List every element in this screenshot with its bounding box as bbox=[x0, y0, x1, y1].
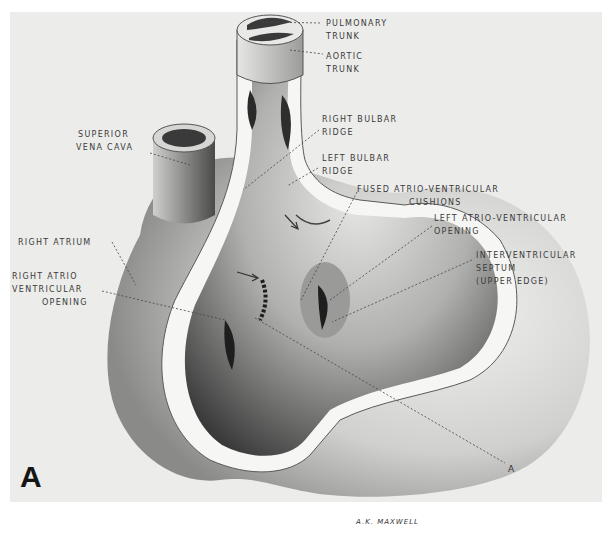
label-right-av-opening: RIGHT ATRIO VENTRICULAR OPENING bbox=[12, 270, 88, 309]
label-left-av-opening: LEFT ATRIO-VENTRICULAR OPENING bbox=[434, 212, 567, 238]
section-marker-a: A bbox=[508, 464, 514, 474]
label-aortic-trunk: AORTIC TRUNK bbox=[326, 50, 363, 76]
label-pulmonary-trunk: PULMONARY TRUNK bbox=[326, 17, 387, 43]
label-interventricular-septum: INTERVENTRICULAR SEPTUM (UPPER EDGE) bbox=[476, 249, 577, 288]
panel-letter: A bbox=[20, 460, 42, 494]
label-fused-av-cushions: FUSED ATRIO-VENTRICULAR CUSHIONS bbox=[357, 183, 499, 209]
superior-vena-cava-vessel bbox=[153, 124, 215, 224]
left-av-opening-shape bbox=[300, 262, 350, 338]
label-right-atrium: RIGHT ATRIUM bbox=[18, 236, 92, 249]
heart-embryology-figure: PULMONARY TRUNK AORTIC TRUNK SUPERIOR VE… bbox=[0, 0, 607, 537]
artist-signature: A.K. MAXWELL bbox=[356, 518, 419, 526]
label-left-bulbar-ridge: LEFT BULBAR RIDGE bbox=[322, 152, 390, 178]
label-superior-vena-cava: SUPERIOR VENA CAVA bbox=[76, 128, 133, 154]
label-right-bulbar-ridge: RIGHT BULBAR RIDGE bbox=[322, 113, 397, 139]
